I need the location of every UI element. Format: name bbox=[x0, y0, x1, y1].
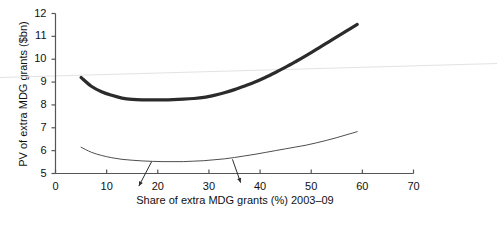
x-tick-label: 20 bbox=[145, 180, 171, 192]
x-tick-label: 40 bbox=[247, 180, 273, 192]
x-tick-label: 70 bbox=[401, 180, 427, 192]
x-tick-label: 10 bbox=[94, 180, 120, 192]
x-tick-label: 50 bbox=[298, 180, 324, 192]
x-tick-label: 60 bbox=[349, 180, 375, 192]
faint-scan-line bbox=[0, 64, 497, 78]
y-tick-label: 7 bbox=[25, 121, 47, 133]
y-tick-label: 12 bbox=[25, 7, 47, 19]
y-tick-label: 5 bbox=[25, 167, 47, 179]
plot-area bbox=[0, 0, 497, 227]
x-tick-label: 30 bbox=[196, 180, 222, 192]
data-series bbox=[81, 24, 357, 161]
y-tick-label: 10 bbox=[25, 52, 47, 64]
chart-figure: PV of extra MDG grants ($bn) Share of ex… bbox=[0, 0, 497, 227]
y-tick-label: 9 bbox=[25, 75, 47, 87]
x-tick-label: 0 bbox=[43, 180, 69, 192]
y-tick-label: 8 bbox=[25, 98, 47, 110]
y-tick-label: 6 bbox=[25, 144, 47, 156]
y-tick-label: 11 bbox=[25, 29, 47, 41]
